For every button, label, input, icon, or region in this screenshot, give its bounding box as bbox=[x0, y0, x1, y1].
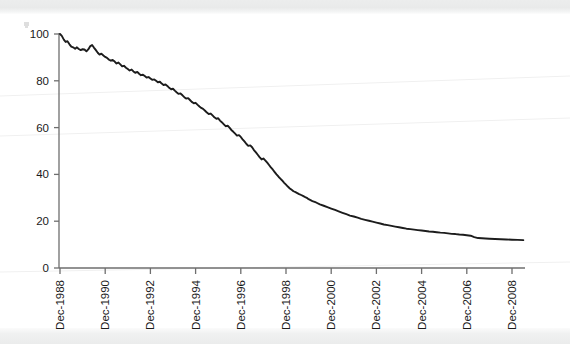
y-tick-label: 40 bbox=[36, 168, 49, 180]
x-tick-label: Dec-1998 bbox=[280, 280, 292, 330]
y-tick-label: 0 bbox=[43, 262, 49, 274]
x-axis-tick-labels: Dec-1988Dec-1990Dec-1992Dec-1994Dec-1996… bbox=[54, 279, 518, 329]
x-tick-label: Dec-1994 bbox=[190, 279, 202, 329]
y-tick-label: 60 bbox=[36, 122, 49, 134]
x-axis-ticks bbox=[60, 268, 512, 274]
scan-artifacts bbox=[0, 76, 570, 272]
x-tick-label: Dec-1992 bbox=[144, 280, 156, 330]
y-axis-ticks bbox=[54, 34, 59, 268]
y-axis-tick-labels: 020406080100 bbox=[30, 28, 49, 274]
y-tick-label: 80 bbox=[36, 75, 49, 87]
x-tick-label: Dec-2006 bbox=[461, 280, 473, 330]
y-tick-label: 20 bbox=[36, 215, 49, 227]
data-series-line bbox=[60, 34, 523, 240]
line-chart: 020406080100 Dec-1988Dec-1990Dec-1992Dec… bbox=[0, 0, 570, 344]
x-tick-label: Dec-1988 bbox=[54, 280, 66, 330]
y-tick-label: 100 bbox=[30, 28, 49, 40]
x-tick-label: Dec-1990 bbox=[99, 280, 111, 330]
x-tick-label: Dec-2002 bbox=[370, 280, 382, 330]
x-tick-label: Dec-1996 bbox=[235, 280, 247, 330]
x-tick-label: Dec-2000 bbox=[325, 280, 337, 330]
paper-specks bbox=[24, 22, 29, 28]
x-tick-label: Dec-2004 bbox=[416, 279, 428, 329]
chart-canvas: 020406080100 Dec-1988Dec-1990Dec-1992Dec… bbox=[0, 0, 570, 344]
x-tick-label: Dec-2008 bbox=[506, 280, 518, 330]
